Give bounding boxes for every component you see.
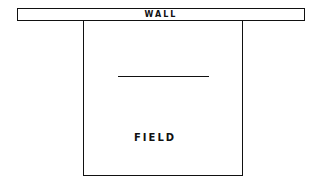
- wall-label: WALL: [145, 10, 178, 19]
- wall-rectangle: WALL: [17, 8, 305, 21]
- field-label: FIELD: [134, 132, 176, 143]
- field-rectangle: [83, 21, 243, 176]
- horizontal-line: [118, 76, 209, 77]
